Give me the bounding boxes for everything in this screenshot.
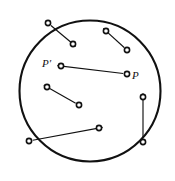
point-label-p-prime: P′: [41, 57, 52, 69]
arrow-middle-left-head-point: [44, 84, 49, 89]
figure-svg: P′P: [0, 0, 175, 181]
arrow-top-left-tail-point: [45, 20, 50, 25]
arrow-bottom-left-tail-point: [26, 138, 31, 143]
displacement-vectors-group: [33, 25, 143, 140]
point-label-p: P: [131, 69, 139, 81]
arrow-top-right-head-point: [103, 28, 108, 33]
arrow-top-right-tail-point: [124, 47, 129, 52]
arrow-right-vertical-head-point: [140, 94, 145, 99]
arrow-top-left-head-point: [70, 41, 75, 46]
arrow-p-to-p-prime-tail-point: [124, 71, 129, 76]
arrow-bottom-left-head-point: [96, 125, 101, 130]
figure-canvas: P′P: [0, 0, 175, 181]
arrow-bottom-left: [33, 127, 103, 140]
arrow-middle-left-tail-point: [76, 102, 81, 107]
disk-boundary-circle: [20, 21, 161, 162]
arrow-p-to-p-prime: [58, 66, 124, 74]
arrow-p-to-p-prime-head-point: [58, 63, 63, 68]
point-markers-group: [26, 20, 145, 144]
disk-boundary-group: [20, 21, 161, 162]
arrow-right-vertical-tail-point: [140, 139, 145, 144]
